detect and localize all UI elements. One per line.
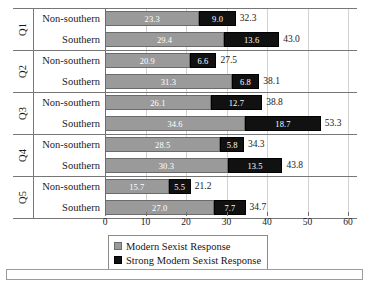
- chart-figure: Q1Non-southern23.39.032.3Southern29.413.…: [0, 0, 369, 281]
- bar-total-label: 34.3: [244, 137, 265, 152]
- x-tick-label-60: 60: [343, 217, 353, 227]
- bar-segment-strong: 9.0: [199, 11, 235, 26]
- bar-segment-modern: 31.3: [105, 74, 232, 89]
- row-label-non-southern: Non-southern: [33, 50, 103, 71]
- bar-segment-strong: 13.5: [228, 158, 283, 173]
- legend-item-strong: Strong Modern Sexist Response: [114, 253, 261, 267]
- row-label-southern: Southern: [33, 71, 103, 92]
- chart-row: Non-southern28.55.834.3: [13, 134, 357, 155]
- legend-swatch-strong-icon: [114, 256, 122, 264]
- chart-plot-area: Q1Non-southern23.39.032.3Southern29.413.…: [13, 8, 357, 218]
- bar-total-label: 27.5: [216, 53, 237, 68]
- bar-total-label: 38.8: [262, 95, 283, 110]
- chart-legend: Modern Sexist Response Strong Modern Sex…: [108, 235, 268, 271]
- stacked-bar: 29.413.643.0: [105, 32, 339, 47]
- bar-total-label: 43.0: [279, 32, 300, 47]
- chart-group-q3: Q3Non-southern26.112.738.8Southern34.618…: [13, 92, 357, 134]
- chart-row: Non-southern26.112.738.8: [13, 92, 357, 113]
- bar-segment-strong: 13.6: [224, 32, 279, 47]
- bar-segment-modern: 23.3: [105, 11, 199, 26]
- chart-row: Southern31.36.838.1: [13, 71, 357, 92]
- bar-segment-modern: 20.9: [105, 53, 190, 68]
- chart-row: Non-southern23.39.032.3: [13, 8, 357, 29]
- chart-row: Non-southern20.96.627.5: [13, 50, 357, 71]
- bar-total-label: 32.3: [236, 11, 257, 26]
- bar-segment-strong: 5.8: [220, 137, 243, 152]
- x-tick-10: [146, 212, 147, 216]
- stacked-bar: 15.75.521.2: [105, 179, 251, 194]
- bar-segment-modern: 34.6: [105, 116, 245, 131]
- row-label-southern: Southern: [33, 197, 103, 218]
- bar-segment-modern: 28.5: [105, 137, 220, 152]
- bar-segment-modern: 26.1: [105, 95, 211, 110]
- bar-segment-strong: 12.7: [211, 95, 262, 110]
- bar-segment-strong: 5.5: [169, 179, 191, 194]
- stacked-bar: 20.96.627.5: [105, 53, 276, 68]
- stacked-bar: 28.55.834.3: [105, 137, 304, 152]
- stacked-bar: 23.39.032.3: [105, 11, 296, 26]
- stacked-bar: 31.36.838.1: [105, 74, 319, 89]
- row-label-southern: Southern: [33, 155, 103, 176]
- row-label-non-southern: Non-southern: [33, 134, 103, 155]
- x-tick-label-20: 20: [181, 217, 191, 227]
- row-label-non-southern: Non-southern: [33, 92, 103, 113]
- bar-total-label: 53.3: [321, 116, 342, 131]
- x-tick-40: [267, 212, 268, 216]
- chart-row: Southern29.413.643.0: [13, 29, 357, 50]
- x-tick-30: [227, 212, 228, 216]
- row-label-non-southern: Non-southern: [33, 176, 103, 197]
- x-tick-0: [105, 212, 106, 216]
- x-tick-60: [348, 212, 349, 216]
- row-label-southern: Southern: [33, 113, 103, 134]
- x-axis: 0102030405060: [105, 212, 357, 234]
- stacked-bar: 26.112.738.8: [105, 95, 322, 110]
- x-tick-20: [186, 212, 187, 216]
- chart-row: Southern34.618.753.3: [13, 113, 357, 134]
- stacked-bar: 34.618.753.3: [105, 116, 369, 131]
- bar-segment-modern: 15.7: [105, 179, 169, 194]
- chart-group-q1: Q1Non-southern23.39.032.3Southern29.413.…: [13, 8, 357, 50]
- x-tick-50: [308, 212, 309, 216]
- x-tick-label-50: 50: [303, 217, 313, 227]
- bar-total-label: 43.8: [282, 158, 303, 173]
- chart-group-q2: Q2Non-southern20.96.627.5Southern31.36.8…: [13, 50, 357, 92]
- x-tick-label-30: 30: [222, 217, 232, 227]
- x-tick-label-40: 40: [262, 217, 272, 227]
- chart-row: Non-southern15.75.521.2: [13, 176, 357, 197]
- legend-label-strong: Strong Modern Sexist Response: [126, 255, 261, 266]
- stacked-bar: 30.313.543.8: [105, 158, 342, 173]
- footer-note-box: [6, 269, 363, 280]
- row-label-non-southern: Non-southern: [33, 8, 103, 29]
- bar-segment-modern: 30.3: [105, 158, 228, 173]
- x-tick-label-10: 10: [141, 217, 151, 227]
- bar-segment-strong: 18.7: [245, 116, 321, 131]
- bar-segment-strong: 6.6: [190, 53, 217, 68]
- legend-item-modern: Modern Sexist Response: [114, 239, 261, 253]
- bar-segment-strong: 6.8: [232, 74, 260, 89]
- bar-total-label: 21.2: [191, 179, 212, 194]
- chart-row: Southern30.313.543.8: [13, 155, 357, 176]
- chart-group-q4: Q4Non-southern28.55.834.3Southern30.313.…: [13, 134, 357, 176]
- bar-segment-modern: 29.4: [105, 32, 224, 47]
- row-label-southern: Southern: [33, 29, 103, 50]
- bar-total-label: 38.1: [259, 74, 280, 89]
- legend-label-modern: Modern Sexist Response: [126, 241, 230, 252]
- legend-swatch-modern-icon: [114, 242, 122, 250]
- x-tick-label-0: 0: [103, 217, 108, 227]
